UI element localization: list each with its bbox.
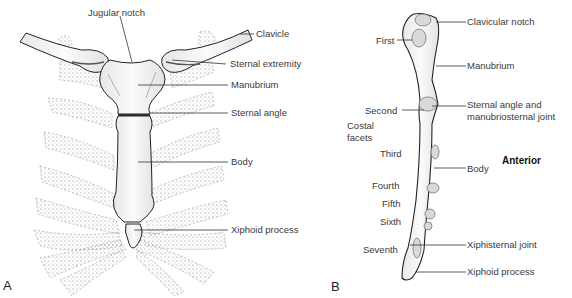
label-sternal-angle: Sternal angle [231, 108, 287, 118]
label-clavicle: Clavicle [256, 29, 289, 39]
label-xiphoid-process-b: Xiphoid process [467, 267, 535, 277]
label-facet-fourth: Fourth [372, 181, 399, 191]
label-facet-third: Third [380, 149, 402, 159]
label-body-b: Body [467, 164, 489, 174]
label-body-a: Body [231, 157, 253, 167]
label-clavicular-notch: Clavicular notch [467, 17, 535, 27]
label-facet-fifth: Fifth [382, 199, 400, 209]
label-sternal-angle-b-line1: Sternal angle and [467, 100, 541, 110]
label-facet-first: First [376, 36, 394, 46]
label-facet-second: Second [365, 106, 397, 116]
label-view-anterior: Anterior [502, 156, 541, 166]
label-xiphisternal-joint: Xiphisternal joint [467, 240, 537, 250]
label-facet-sixth: Sixth [380, 217, 401, 227]
label-costal-facets-line1: Costal [347, 121, 374, 131]
panel-letter-b: B [331, 279, 340, 294]
label-sternal-extremity: Sternal extremity [230, 59, 301, 69]
panel-letter-a: A [3, 278, 12, 293]
sternum-illustration [0, 0, 572, 298]
label-manubrium-b: Manubrium [467, 61, 515, 71]
label-costal-facets-line2: facets [347, 133, 372, 143]
label-jugular-notch: Jugular notch [88, 8, 145, 18]
label-facet-seventh: Seventh [363, 245, 398, 255]
label-xiphoid-process-a: Xiphoid process [231, 225, 299, 235]
label-sternal-angle-b-line2: manubriosternal joint [467, 112, 555, 122]
label-manubrium-a: Manubrium [231, 80, 279, 90]
